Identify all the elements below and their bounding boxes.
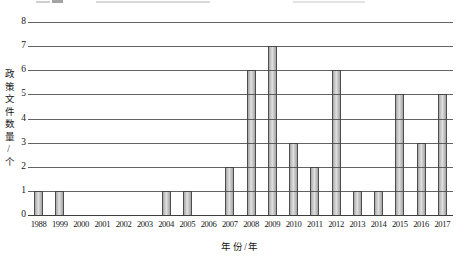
gridline-y6: [28, 70, 453, 71]
y-tick-label-8: 8: [21, 17, 26, 27]
gridline-y2: [28, 167, 453, 168]
bar-2016: [417, 143, 426, 215]
gridline-y3: [28, 143, 453, 144]
y-tick-label-4: 4: [21, 114, 26, 124]
bar-1988: [34, 191, 43, 215]
gridline-y4: [28, 119, 453, 120]
caption-remnant-mark: [293, 1, 365, 3]
x-tick-label-2000: 2000: [71, 219, 92, 229]
x-axis-title: 年份/年: [28, 239, 453, 253]
bar-2013: [353, 191, 362, 215]
policy-documents-bar-chart: 政策文件数量/个 012345678 198819992000200120022…: [0, 0, 465, 258]
x-tick-label-2002: 2002: [113, 219, 134, 229]
x-tick-label-2009: 2009: [262, 219, 283, 229]
y-tick-label-7: 7: [21, 41, 26, 51]
x-tick-label-2017: 2017: [432, 219, 453, 229]
x-tick-label-2003: 2003: [134, 219, 155, 229]
gridline-y7: [28, 46, 453, 47]
bar-2005: [183, 191, 192, 215]
x-tick-label-1988: 1988: [28, 219, 49, 229]
caption-remnant-mark: [96, 1, 210, 3]
x-tick-label-2007: 2007: [219, 219, 240, 229]
y-axis-tick-labels: 012345678: [0, 22, 26, 215]
bar-2010: [289, 143, 298, 215]
bar-1999: [55, 191, 64, 215]
x-tick-label-2004: 2004: [156, 219, 177, 229]
x-tick-label-2014: 2014: [368, 219, 389, 229]
y-tick-label-2: 2: [21, 162, 26, 172]
bar-2009: [268, 46, 277, 215]
x-tick-label-2015: 2015: [389, 219, 410, 229]
x-tick-label-1999: 1999: [49, 219, 70, 229]
x-tick-label-2010: 2010: [283, 219, 304, 229]
gridline-y8: [28, 22, 453, 23]
y-tick-label-5: 5: [21, 90, 26, 100]
bar-2017: [438, 94, 447, 215]
gridline-y1: [28, 191, 453, 192]
bar-2014: [374, 191, 383, 215]
y-tick-label-0: 0: [21, 210, 26, 220]
x-tick-label-2001: 2001: [92, 219, 113, 229]
x-tick-label-2012: 2012: [326, 219, 347, 229]
x-axis-tick-labels: 1988199920002001200220032004200520062007…: [28, 219, 453, 229]
bar-2015: [395, 94, 404, 215]
y-tick-label-6: 6: [21, 66, 26, 76]
x-tick-label-2008: 2008: [241, 219, 262, 229]
x-tick-label-2006: 2006: [198, 219, 219, 229]
x-tick-label-2016: 2016: [411, 219, 432, 229]
caption-remnant-mark: [52, 0, 63, 3]
y-tick-label-1: 1: [21, 186, 26, 196]
x-tick-label-2013: 2013: [347, 219, 368, 229]
x-tick-label-2011: 2011: [304, 219, 325, 229]
x-tick-label-2005: 2005: [177, 219, 198, 229]
caption-remnant-mark: [36, 1, 50, 3]
y-tick-label-3: 3: [21, 138, 26, 148]
gridline-y5: [28, 94, 453, 95]
bar-2004: [162, 191, 171, 215]
plot-area: [28, 22, 453, 216]
